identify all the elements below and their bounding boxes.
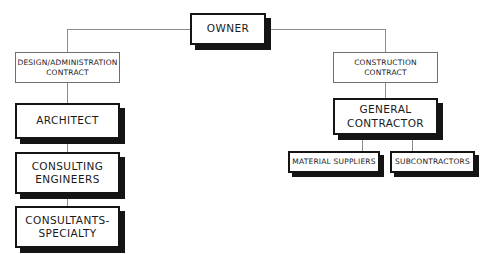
node-consultants-specialty[interactable]: CONSULTANTS- SPECIALTY [15,206,120,248]
edge-architect-to-consulting-engineers [67,139,68,152]
node-subcontractors[interactable]: SUBCONTRACTORS [390,151,475,173]
node-design-administration-contract-label: DESIGN/ADMINISTRATION CONTRACT [17,58,117,77]
edge-owner-to-construction-vertical [385,29,386,53]
node-consulting-engineers[interactable]: CONSULTING ENGINEERS [15,152,120,194]
node-design-administration-contract[interactable]: DESIGN/ADMINISTRATION CONTRACT [15,52,120,83]
node-general-contractor-label: GENERAL CONTRACTOR [347,103,424,130]
edge-general-contractor-to-subcontractors [412,135,413,151]
node-owner-label: OWNER [207,22,249,35]
edge-owner-to-left-branch-horizontal [67,29,191,30]
edge-design-admin-to-architect [67,83,68,103]
node-material-suppliers[interactable]: MATERIAL SUPPLIERS [288,151,380,173]
edge-consulting-engineers-to-consultants-specialty [67,194,68,206]
edge-owner-to-design-admin-vertical [67,29,68,53]
node-consultants-specialty-label: CONSULTANTS- SPECIALTY [25,214,110,241]
node-general-contractor[interactable]: GENERAL CONTRACTOR [333,98,438,135]
node-architect-label: ARCHITECT [36,114,99,127]
edge-owner-to-right-branch-horizontal [266,29,386,30]
node-architect[interactable]: ARCHITECT [15,103,120,139]
node-construction-contract[interactable]: CONSTRUCTION CONTRACT [333,52,438,83]
node-consulting-engineers-label: CONSULTING ENGINEERS [32,160,104,187]
node-subcontractors-label: SUBCONTRACTORS [395,157,470,167]
node-construction-contract-label: CONSTRUCTION CONTRACT [354,58,417,77]
node-owner[interactable]: OWNER [190,13,266,45]
edge-construction-to-general-contractor [385,83,386,98]
node-material-suppliers-label: MATERIAL SUPPLIERS [292,157,375,167]
org-chart-canvas: OWNER DESIGN/ADMINISTRATION CONTRACT ARC… [0,0,487,254]
edge-general-contractor-to-material-suppliers [362,135,363,151]
